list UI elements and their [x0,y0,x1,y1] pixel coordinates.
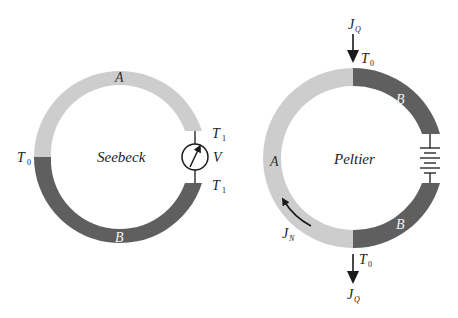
peltier-label-b-bottom: B [396,217,405,232]
svg-text:1: 1 [222,134,226,143]
seebeck-label-a: A [114,70,124,85]
thermoelectric-diagram: Seebeck A B V T 0 T 1 T 1 [0,0,458,318]
peltier-particle-flow-label: J N [282,226,295,243]
svg-text:T: T [359,252,368,267]
seebeck-junction-t1-bottom: T 1 [212,178,226,195]
svg-text:J: J [282,226,289,241]
svg-text:T: T [212,126,221,141]
heat-flow-in-arrow-icon [347,34,359,63]
svg-text:Q: Q [354,295,360,304]
svg-text:J: J [347,287,354,302]
svg-text:J: J [348,17,355,32]
peltier-label-a: A [269,154,279,169]
svg-text:0: 0 [368,260,372,269]
seebeck-title: Seebeck [97,149,146,165]
voltmeter-icon [182,144,208,170]
seebeck-label-b: B [115,230,124,245]
seebeck-junction-t0: T 0 [17,150,31,167]
peltier-heat-flow-in-label: J Q [348,17,361,34]
svg-text:T: T [212,178,221,193]
svg-text:0: 0 [27,158,31,167]
peltier-heat-flow-out-label: J Q [347,287,360,304]
peltier-title: Peltier [333,151,375,167]
svg-text:Q: Q [355,25,361,34]
seebeck-label-v: V [213,150,223,165]
svg-text:N: N [288,234,295,243]
svg-text:T: T [361,51,370,66]
peltier-junction-t0-top: T 0 [361,51,374,68]
seebeck-junction-t1-top: T 1 [212,126,226,143]
battery-icon [420,134,440,183]
peltier-material-b-bottom-band [353,183,440,248]
peltier-label-b-top: B [396,92,405,107]
svg-text:1: 1 [222,186,226,195]
heat-flow-out-arrow-icon [347,254,359,284]
svg-text:T: T [17,150,26,165]
svg-text:0: 0 [370,59,374,68]
peltier-junction-t0-bottom: T 0 [359,252,372,269]
